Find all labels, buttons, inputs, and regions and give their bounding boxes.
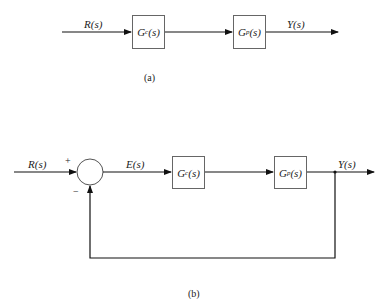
plant-block-a: Gp(s) <box>233 15 266 49</box>
block-arg: (s) <box>249 26 261 38</box>
block-arg: (s) <box>290 167 302 179</box>
block-arg: (s) <box>188 167 200 179</box>
error-label: E(s) <box>126 158 144 170</box>
block-name: G <box>137 26 145 38</box>
input-label-a: R(s) <box>84 18 102 30</box>
plus-sign: + <box>65 155 71 166</box>
block-name: G <box>177 167 185 179</box>
output-label-a: Y(s) <box>287 18 305 30</box>
block-name: G <box>279 167 287 179</box>
summing-junction <box>77 159 103 185</box>
diagram-lines <box>0 0 383 299</box>
block-arg: (s) <box>148 26 160 38</box>
caption-b: (b) <box>188 288 200 299</box>
minus-sign: − <box>73 186 79 197</box>
plant-block-b: Gp(s) <box>274 156 307 189</box>
caption-a: (a) <box>144 72 155 83</box>
input-label-b: R(s) <box>28 158 46 170</box>
block-name: G <box>238 26 246 38</box>
controller-block-a: Gc(s) <box>132 15 165 49</box>
controller-block-b: Gc(s) <box>172 156 205 189</box>
output-label-b: Y(s) <box>338 158 356 170</box>
